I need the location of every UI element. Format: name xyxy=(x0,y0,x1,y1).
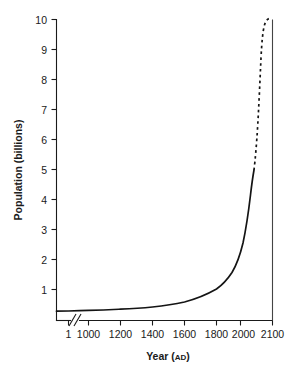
y-tick-label-9: 9 xyxy=(41,44,47,56)
y-axis-ticks xyxy=(52,20,57,290)
population-growth-chart: 10 9 8 7 6 5 4 3 2 1 1 1000 1200 1400 16… xyxy=(0,0,300,374)
x-tick-label-1800: 1800 xyxy=(205,328,229,340)
y-tick-label-5: 5 xyxy=(41,164,47,176)
x-tick-label-2000: 2000 xyxy=(232,328,256,340)
y-axis-title: Population (billions) xyxy=(12,120,24,221)
x-tick-label-1400: 1400 xyxy=(141,328,165,340)
x-axis-ticks xyxy=(69,321,273,326)
x-tick-label-1600: 1600 xyxy=(173,328,197,340)
series-projected-population xyxy=(254,19,271,170)
x-tick-label-2100: 2100 xyxy=(261,328,285,340)
y-tick-label-8: 8 xyxy=(41,74,47,86)
y-tick-label-4: 4 xyxy=(41,194,47,206)
y-tick-label-1: 1 xyxy=(41,284,47,296)
y-tick-label-2: 2 xyxy=(41,254,47,266)
y-tick-label-3: 3 xyxy=(41,224,47,236)
x-tick-label-1000: 1000 xyxy=(77,328,101,340)
x-tick-label-1: 1 xyxy=(66,328,72,340)
y-tick-label-7: 7 xyxy=(41,104,47,116)
series-historical-population xyxy=(57,170,255,311)
y-tick-label-6: 6 xyxy=(41,134,47,146)
chart-canvas: 10 9 8 7 6 5 4 3 2 1 1 1000 1200 1400 16… xyxy=(0,0,300,374)
x-tick-label-1200: 1200 xyxy=(109,328,133,340)
y-tick-label-10: 10 xyxy=(35,14,47,26)
x-axis-title: Year (AD) xyxy=(146,350,190,362)
